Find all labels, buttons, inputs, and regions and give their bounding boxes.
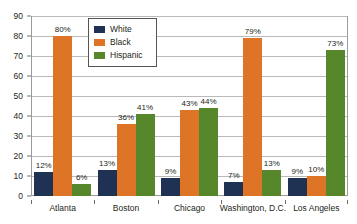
bar-value-label: 7% (228, 172, 240, 180)
y-tick-label: 80 (14, 32, 23, 41)
bar-hispanic-boston (136, 114, 155, 196)
x-tick-mark (285, 200, 286, 204)
legend-swatch-icon (94, 39, 105, 46)
bar-value-label: 36% (118, 114, 134, 122)
bars-layer: 12%80%6%13%36%41%9%43%44%7%79%13%9%10%73… (31, 16, 348, 196)
bar-black-chicago (180, 110, 199, 196)
bar-value-label: 12% (36, 162, 52, 170)
x-tick-label: Los Angeles (293, 204, 339, 213)
bar-white-chicago (161, 178, 180, 196)
bar-value-label: 13% (99, 160, 115, 168)
legend-item-white: White (94, 23, 151, 36)
legend-label: Black (110, 38, 131, 47)
bar-group: 9%43%44% (158, 16, 221, 196)
bar-value-label: 9% (165, 168, 177, 176)
x-tick-label: Boston (113, 204, 139, 213)
y-tick-label: 30 (14, 132, 23, 141)
bar-black-washington-d-c (243, 38, 262, 196)
legend-label: Hispanic (110, 51, 143, 60)
bar-value-label: 10% (308, 166, 324, 174)
x-tick-label: Chicago (174, 204, 205, 213)
bar-value-label: 13% (264, 160, 280, 168)
bar-white-washington-d-c (224, 182, 243, 196)
bar-hispanic-washington-d-c (262, 170, 281, 196)
legend-swatch-icon (94, 52, 105, 59)
bar-value-label: 9% (292, 168, 304, 176)
bar-group: 9%10%73% (285, 16, 348, 196)
y-tick-label: 20 (14, 152, 23, 161)
y-tick-label: 50 (14, 92, 23, 101)
legend-item-hispanic: Hispanic (94, 49, 151, 62)
y-tick-label: 0 (18, 192, 23, 201)
x-tick-label: Atlanta (49, 204, 75, 213)
bar-white-boston (98, 170, 117, 196)
chart-legend: WhiteBlackHispanic (88, 18, 157, 67)
bar-black-atlanta (53, 36, 72, 196)
bar-group: 12%80%6% (31, 16, 94, 196)
legend-label: White (110, 25, 132, 34)
bar-hispanic-los-angeles (326, 50, 345, 196)
bar-group: 7%79%13% (221, 16, 284, 196)
bar-black-los-angeles (307, 176, 326, 196)
x-tick-label: Washington, D.C. (220, 204, 286, 213)
y-tick-label: 10 (14, 172, 23, 181)
bar-white-atlanta (34, 172, 53, 196)
bar-hispanic-chicago (199, 108, 218, 196)
y-tick-label: 90 (14, 12, 23, 21)
x-tick-mark (221, 200, 222, 204)
bar-value-label: 41% (137, 104, 153, 112)
x-tick-mark (158, 200, 159, 204)
y-axis: 0102030405060708090 (0, 0, 31, 224)
y-tick-label: 70 (14, 52, 23, 61)
bar-black-boston (117, 124, 136, 196)
bar-value-label: 44% (200, 98, 216, 106)
bar-chart: 0102030405060708090 12%80%6%13%36%41%9%4… (0, 0, 357, 224)
bar-value-label: 79% (245, 28, 261, 36)
x-tick-mark (347, 200, 348, 204)
x-axis: AtlantaBostonChicagoWashington, D.C.Los … (31, 200, 348, 224)
x-tick-mark (31, 200, 32, 204)
bar-value-label: 6% (76, 174, 88, 182)
x-tick-mark (94, 200, 95, 204)
bar-value-label: 43% (181, 100, 197, 108)
bar-value-label: 80% (55, 26, 71, 34)
y-tick-label: 40 (14, 112, 23, 121)
bar-white-los-angeles (288, 178, 307, 196)
bar-value-label: 73% (327, 40, 343, 48)
legend-swatch-icon (94, 26, 105, 33)
bar-hispanic-atlanta (72, 184, 91, 196)
y-tick-label: 60 (14, 72, 23, 81)
legend-item-black: Black (94, 36, 151, 49)
